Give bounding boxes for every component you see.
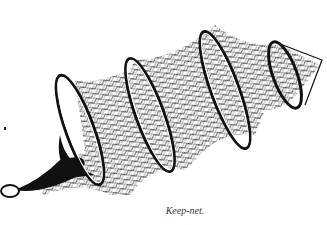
- keep-net-drawing: [0, 0, 327, 225]
- margin-mark: [4, 127, 6, 130]
- keep-net-illustration: [0, 0, 327, 225]
- figure-caption: Keep-net.: [0, 205, 327, 216]
